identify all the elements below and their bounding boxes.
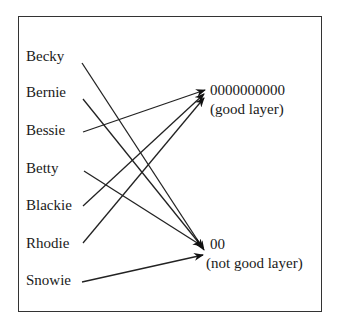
target-good-caption: (good layer) (210, 101, 284, 117)
source-blackie: Blackie (26, 197, 72, 213)
target-bad-value: 00 (210, 236, 225, 252)
source-betty: Betty (26, 160, 59, 176)
arrow-bessie (83, 90, 205, 132)
source-bessie: Bessie (26, 122, 65, 138)
source-rhodie: Rhodie (26, 235, 69, 251)
arrow-betty (84, 171, 202, 246)
source-snowie: Snowie (26, 272, 71, 288)
arrow-snowie (82, 255, 203, 282)
target-good-value: 0000000000 (210, 82, 285, 98)
source-becky: Becky (26, 48, 64, 64)
target-bad-caption: (not good layer) (206, 255, 303, 271)
source-bernie: Bernie (26, 84, 66, 100)
